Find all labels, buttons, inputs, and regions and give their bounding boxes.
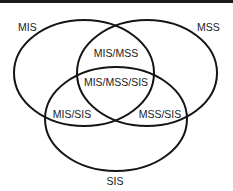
venn-diagram: MIS MSS SIS MIS/MSS MIS/MSS/SIS MIS/SIS … xyxy=(0,0,233,191)
mis-sis-intersection-label: MIS/SIS xyxy=(53,108,92,120)
mss-set-label: MSS xyxy=(197,21,220,33)
mis-mss-sis-intersection-label: MIS/MSS/SIS xyxy=(84,76,148,88)
mis-set-label: MIS xyxy=(18,21,37,33)
mss-sis-intersection-label: MSS/SIS xyxy=(139,108,182,120)
sis-set-label: SIS xyxy=(107,175,124,187)
mis-mss-intersection-label: MIS/MSS xyxy=(94,47,138,59)
